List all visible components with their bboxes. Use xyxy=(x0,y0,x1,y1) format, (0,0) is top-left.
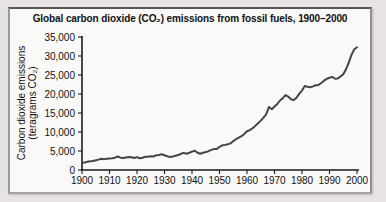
chart-title: Global carbon dioxide (CO₂) emissions fr… xyxy=(12,13,368,24)
y-axis-title-line1: Carbon dioxide emissions xyxy=(16,23,27,183)
chart-panel: Global carbon dioxide (CO₂) emissions fr… xyxy=(8,7,372,194)
y-axis-title-line2: (teragrams CO₂) xyxy=(27,23,38,183)
y-axis-title: Carbon dioxide emissions (teragrams CO₂) xyxy=(16,23,38,183)
